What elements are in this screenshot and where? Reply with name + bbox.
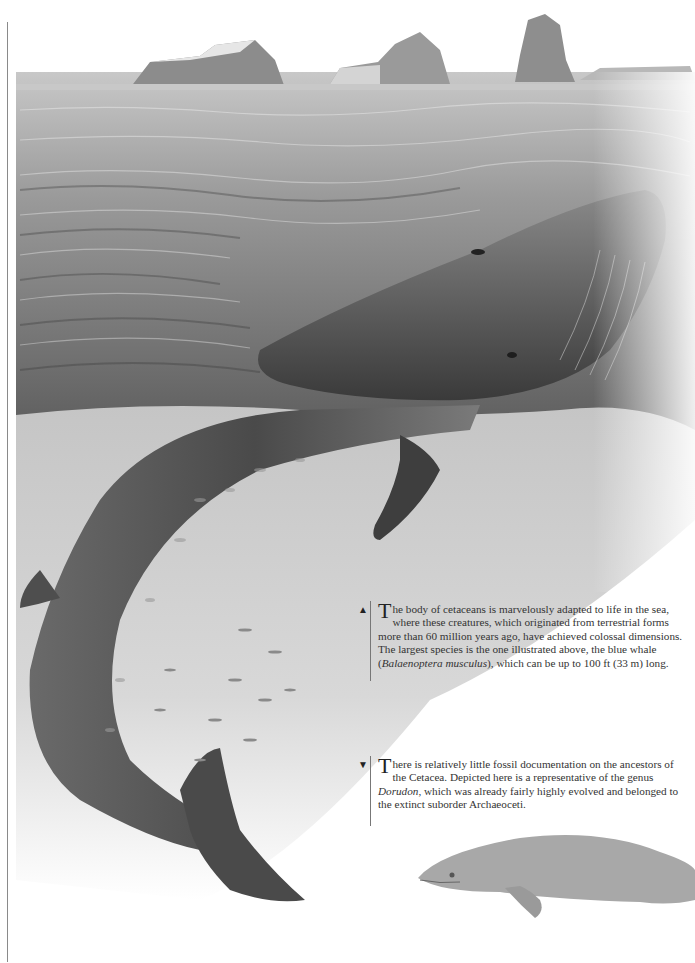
triangle-up-icon: ▲ <box>358 603 368 616</box>
caption-body-1: here is relatively little fossil documen… <box>392 758 673 783</box>
caption-rule <box>370 601 371 681</box>
drop-cap: T <box>378 604 391 618</box>
dorudon-illustration <box>418 835 695 918</box>
caption-text: The body of cetaceans is marvelously ada… <box>378 603 683 670</box>
whale-illustration <box>0 0 695 963</box>
caption-blue-whale: ▲ The body of cetaceans is marvelously a… <box>378 603 683 670</box>
triangle-down-icon: ▼ <box>358 758 368 771</box>
drop-cap: T <box>378 759 391 773</box>
caption-text: There is relatively little fossil docume… <box>378 758 683 812</box>
caption-dorudon: ▼ There is relatively little fossil docu… <box>378 758 683 812</box>
species-name: Balaenoptera musculus <box>382 657 487 669</box>
caption-body-2: , which was already fairly highly evolve… <box>378 785 678 810</box>
caption-rule <box>370 756 371 826</box>
caption-body-2: ), which can be up to 100 ft (33 m) long… <box>487 657 668 669</box>
genus-name: Dorudon <box>378 785 418 797</box>
